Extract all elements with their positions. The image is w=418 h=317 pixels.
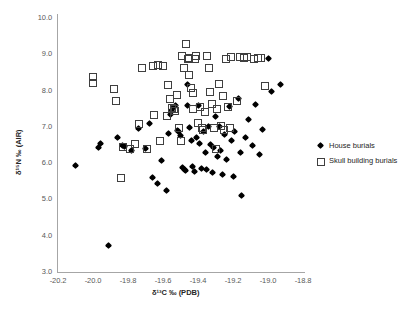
x-tick-label: -18.8 (286, 276, 320, 285)
data-point-house-burial (259, 126, 266, 133)
data-point-house-burial (214, 153, 221, 160)
data-point-skull-building-burial (112, 97, 120, 105)
legend-item-skull-building-burials: Skull building burials (316, 153, 397, 168)
data-point-house-burial (191, 168, 198, 175)
data-point-house-burial (165, 130, 172, 137)
data-point-skull-building-burial (227, 53, 235, 61)
x-tick-label: -19.6 (146, 276, 180, 285)
data-point-house-burial (238, 192, 245, 199)
x-tick-label: -19.8 (111, 276, 145, 285)
data-point-house-burial (236, 149, 243, 156)
data-point-skull-building-burial (192, 52, 200, 60)
y-tick-label: 6.0 (22, 158, 52, 167)
data-point-house-burial (163, 187, 170, 194)
data-point-house-burial (212, 113, 219, 120)
data-point-skull-building-burial (164, 81, 172, 89)
data-point-skull-building-burial (159, 62, 167, 70)
data-point-house-burial (277, 80, 284, 87)
y-tick-label: 5.0 (22, 194, 52, 203)
legend-label-skull-building-burials: Skull building burials (329, 156, 397, 165)
data-point-house-burial (105, 242, 112, 249)
data-point-skull-building-burial (117, 174, 125, 182)
data-point-skull-building-burial (215, 80, 223, 88)
data-point-house-burial (222, 156, 229, 163)
x-tick-label: -19.2 (216, 276, 250, 285)
data-point-house-burial (196, 140, 203, 147)
data-point-skull-building-burial (205, 64, 213, 72)
data-point-skull-building-burial (177, 137, 185, 145)
data-point-skull-building-burial (143, 145, 151, 153)
data-point-skull-building-burial (175, 124, 183, 132)
chart-legend: House burials Skull building burials (316, 138, 397, 168)
data-point-skull-building-burial (206, 88, 214, 96)
data-point-house-burial (145, 120, 152, 127)
data-point-skull-building-burial (182, 40, 190, 48)
data-point-house-burial (158, 157, 165, 164)
data-point-skull-building-burial (213, 105, 221, 113)
x-tick-label: -20.0 (76, 276, 110, 285)
data-point-house-burial (264, 55, 271, 62)
data-point-skull-building-burial (156, 137, 164, 145)
x-tick-label: -19.4 (181, 276, 215, 285)
data-point-skull-building-burial (201, 108, 209, 116)
data-point-skull-building-burial (138, 64, 146, 72)
data-point-skull-building-burial (233, 97, 241, 105)
data-point-house-burial (229, 173, 236, 180)
y-axis-line (57, 14, 58, 272)
data-point-skull-building-burial (173, 91, 181, 99)
data-point-skull-building-burial (199, 126, 207, 134)
data-point-skull-building-burial (224, 103, 232, 111)
open-square-icon (316, 156, 326, 166)
data-point-house-burial (72, 162, 79, 169)
data-point-house-burial (186, 124, 193, 131)
x-axis-title: δ¹³C ‰ (PDB) (152, 288, 199, 297)
data-point-skull-building-burial (261, 82, 269, 90)
y-tick-label: 3.0 (22, 267, 52, 276)
data-point-house-burial (256, 151, 263, 158)
scatter-chart: 3.04.05.06.07.08.09.010.0 -20.2-20.0-19.… (0, 0, 418, 317)
data-point-house-burial (219, 170, 226, 177)
data-point-house-burial (149, 174, 156, 181)
y-tick-label: 4.0 (22, 231, 52, 240)
data-point-house-burial (242, 134, 249, 141)
legend-item-house-burials: House burials (316, 138, 397, 153)
data-point-house-burial (154, 180, 161, 187)
data-point-skull-building-burial (131, 140, 139, 148)
data-point-skull-building-burial (203, 52, 211, 60)
legend-label-house-burials: House burials (329, 141, 375, 150)
y-tick-label: 7.0 (22, 122, 52, 131)
data-point-skull-building-burial (257, 54, 265, 62)
data-point-skull-building-burial (150, 111, 158, 119)
data-point-skull-building-burial (219, 92, 227, 100)
data-point-house-burial (228, 137, 235, 144)
data-point-skull-building-burial (226, 124, 234, 132)
y-tick-label: 8.0 (22, 86, 52, 95)
data-point-house-burial (268, 88, 275, 95)
data-point-skull-building-burial (171, 107, 179, 115)
data-point-house-burial (252, 101, 259, 108)
data-point-house-burial (245, 116, 252, 123)
data-point-skull-building-burial (110, 85, 118, 93)
x-tick-label: -20.2 (41, 276, 75, 285)
data-point-house-burial (201, 149, 208, 156)
x-axis-line (57, 272, 305, 273)
x-tick-label: -19.0 (251, 276, 285, 285)
data-point-house-burial (182, 167, 189, 174)
y-tick-label: 10.0 (22, 13, 52, 22)
y-axis-title: δ¹⁵N ‰ (AIR) (14, 129, 23, 175)
data-point-skull-building-burial (135, 120, 143, 128)
data-point-house-burial (114, 133, 121, 140)
y-tick-label: 9.0 (22, 49, 52, 58)
data-point-skull-building-burial (189, 89, 197, 97)
data-point-skull-building-burial (185, 71, 193, 79)
data-point-skull-building-burial (212, 145, 220, 153)
filled-diamond-icon (316, 141, 326, 151)
data-point-skull-building-burial (89, 79, 97, 87)
data-point-house-burial (249, 141, 256, 148)
